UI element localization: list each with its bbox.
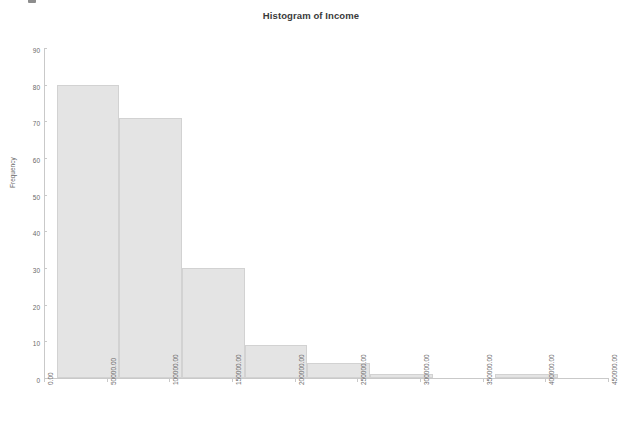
- top-left-artifact-icon: [28, 0, 36, 3]
- y-axis-tick: 90: [33, 39, 44, 57]
- x-axis-tick-mark: [169, 378, 170, 382]
- x-axis-tick-label: 50000.00: [110, 358, 117, 385]
- x-axis-tick-mark: [420, 378, 421, 382]
- y-axis-tick-label: 60: [33, 157, 44, 164]
- plot-area: 0102030405060708090: [44, 48, 608, 378]
- y-axis-tick-mark: [44, 85, 47, 86]
- x-axis-tick-label: 300000.00: [423, 354, 430, 385]
- x-axis-tick-label: 200000.00: [298, 354, 305, 385]
- y-axis-tick-label: 20: [33, 304, 44, 311]
- y-axis-tick-label: 80: [33, 84, 44, 91]
- x-axis-tick-mark: [545, 378, 546, 382]
- y-axis-tick-label: 30: [33, 267, 44, 274]
- y-axis-tick-label: 50: [33, 194, 44, 201]
- x-axis-tick-mark: [44, 378, 45, 382]
- x-axis-tick-label: 250000.00: [360, 354, 367, 385]
- x-axis-tick-mark: [232, 378, 233, 382]
- y-axis-tick-label: 40: [33, 230, 44, 237]
- x-axis-tick-mark: [107, 378, 108, 382]
- y-axis-tick-mark: [44, 48, 47, 49]
- histogram-bar: [57, 85, 120, 378]
- y-axis-tick: 40: [33, 222, 44, 240]
- y-axis-tick: 0: [36, 369, 44, 387]
- y-axis-tick-mark: [44, 121, 47, 122]
- y-axis-tick: 10: [33, 332, 44, 350]
- y-axis-tick-mark: [44, 268, 47, 269]
- x-axis-tick-label: 350000.00: [486, 354, 493, 385]
- y-axis-label: Frequency: [9, 157, 16, 188]
- x-axis-tick-mark: [483, 378, 484, 382]
- y-axis-tick: 30: [33, 259, 44, 277]
- y-axis-tick-label: 90: [33, 47, 44, 54]
- x-axis-line: [44, 378, 609, 379]
- x-axis-tick-mark: [357, 378, 358, 382]
- y-axis-tick-mark: [44, 195, 47, 196]
- y-axis-tick-label: 10: [33, 340, 44, 347]
- y-axis-tick: 50: [33, 186, 44, 204]
- x-axis-tick-mark: [608, 378, 609, 382]
- y-axis-tick: 60: [33, 149, 44, 167]
- chart-title: Histogram of Income: [0, 10, 622, 21]
- y-axis-tick: 80: [33, 76, 44, 94]
- y-axis-tick-mark: [44, 305, 47, 306]
- y-axis-tick-mark: [44, 341, 47, 342]
- x-axis-tick-mark: [295, 378, 296, 382]
- x-axis-tick-label: 150000.00: [235, 354, 242, 385]
- y-axis-tick-mark: [44, 158, 47, 159]
- y-axis-tick-label: 70: [33, 120, 44, 127]
- x-axis-tick-label: 400000.00: [548, 354, 555, 385]
- y-axis-tick: 70: [33, 112, 44, 130]
- y-axis-tick: 20: [33, 296, 44, 314]
- y-axis-tick-label: 0: [36, 377, 44, 384]
- histogram-chart: Histogram of Income Frequency 0102030405…: [0, 0, 622, 439]
- x-axis-tick-label: 450000.00: [611, 354, 618, 385]
- x-axis-tick-label: 0.00: [47, 372, 54, 385]
- histogram-bar: [119, 118, 182, 378]
- x-axis-tick-label: 100000.00: [172, 354, 179, 385]
- y-axis-tick-mark: [44, 231, 47, 232]
